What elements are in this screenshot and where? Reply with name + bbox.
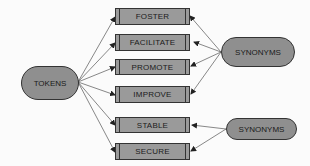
- edge-tokens-foster: [78, 17, 115, 82]
- word-node-promote: PROMOTE: [115, 59, 190, 75]
- word-label: SECURE: [135, 147, 170, 156]
- word-label: FOSTER: [136, 12, 170, 21]
- tokens-node: TOKENS: [21, 66, 79, 100]
- synonyms-label: SYNONYMS: [235, 48, 281, 57]
- edge-synonyms-improve: [191, 52, 221, 94]
- synonyms-label: SYNONYMS: [239, 125, 285, 134]
- synonyms-node-top: SYNONYMS: [221, 37, 295, 67]
- word-node-secure: SECURE: [115, 143, 190, 160]
- edge-synonyms-secure: [191, 129, 226, 151]
- word-label: IMPROVE: [133, 90, 171, 99]
- word-node-facilitate: FACILITATE: [115, 34, 190, 51]
- edge-synonyms-promote: [191, 52, 221, 66]
- word-label: FACILITATE: [130, 38, 176, 47]
- word-node-improve: IMPROVE: [115, 86, 190, 103]
- word-label: STABLE: [137, 121, 168, 130]
- synonyms-node-bottom: SYNONYMS: [226, 118, 297, 140]
- edge-synonyms-stable: [192, 125, 226, 129]
- word-label: PROMOTE: [132, 63, 174, 72]
- word-node-foster: FOSTER: [115, 8, 190, 25]
- tokens-label: TOKENS: [34, 79, 67, 88]
- diagram-canvas: TOKENS FOSTER FACILITATE PROMOTE IMPROVE…: [0, 0, 310, 166]
- word-node-stable: STABLE: [115, 117, 190, 133]
- edge-tokens-secure: [78, 82, 115, 152]
- edge-tokens-promote: [78, 67, 115, 82]
